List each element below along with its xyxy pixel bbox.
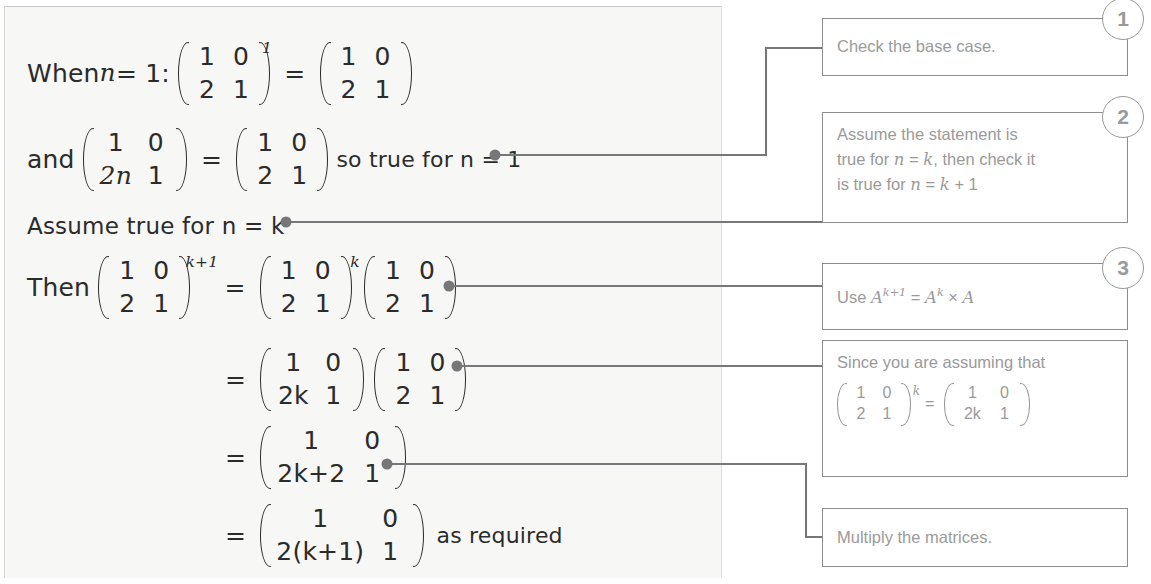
badge-number: 2 [1117, 105, 1129, 129]
paren-left [260, 255, 271, 320]
callout-matrix-lhs: 10 21 k [837, 383, 911, 426]
equals-sign: = [219, 443, 252, 472]
paren-left [260, 425, 271, 490]
cell: 1 [190, 41, 224, 74]
matrix-then-right: 10 21 [364, 255, 456, 320]
cell: 0 [989, 383, 1019, 403]
paren-left [236, 127, 247, 192]
callout-4-equation: 10 21 k = 10 2k1 [837, 383, 1113, 426]
callout-3-sup1: k+1 [883, 286, 906, 299]
cell: 2(k+1) [272, 536, 368, 569]
work-line-then: Then 10 21 k+1 = 10 21 k [27, 255, 456, 320]
callout-2-text-e: + 1 [950, 175, 978, 193]
callout-2-text-c: , then check it [933, 150, 1035, 168]
assume-text: Assume true for n = k [27, 213, 285, 239]
cell: 2 [848, 404, 874, 424]
paren-left [364, 255, 375, 320]
badge-number: 1 [1117, 7, 1129, 31]
work-line-base-case: When n = 1: 10 21 1 = 10 21 [27, 41, 412, 106]
base-case-var: n [100, 58, 116, 87]
badge-number: 3 [1117, 256, 1129, 280]
cell: 1 [272, 503, 368, 536]
cell: 2 [386, 380, 420, 413]
paren-right [317, 127, 328, 192]
callout-3-a3: A [963, 287, 975, 306]
cell: 1 [95, 127, 137, 160]
callout-use-power-rule[interactable]: Use Ak+1 = Ak × A [822, 263, 1128, 330]
paren-left [260, 503, 271, 568]
equals-sign: = [278, 59, 311, 88]
paren-right [413, 503, 424, 568]
work-line-assume: Assume true for n = k [27, 213, 285, 239]
callout-badge-1: 1 [1102, 0, 1144, 40]
callout-3-prefix: Use [837, 287, 871, 305]
work-line-sub: = 10 2k1 10 21 [219, 347, 466, 412]
callout-5-text: Multiply the matrices. [837, 525, 992, 550]
callout-matrix-exponent: k [913, 382, 920, 400]
work-line-formula-check: and 10 2n1 = 10 21 so true for n = 1 [27, 127, 521, 192]
cell: 0 [137, 127, 175, 160]
cell: 0 [874, 383, 900, 403]
equals-sign: = [219, 521, 252, 550]
matrix-then-mid: 10 21 k [260, 255, 352, 320]
callout-2-text-d: is true for [837, 175, 910, 193]
paren-right [395, 425, 406, 490]
paren-left [98, 255, 109, 320]
cell: 1 [376, 255, 410, 288]
paren-left [83, 127, 94, 192]
cell: 2 [190, 74, 224, 107]
work-line-final: = 10 2(k+1)1 as required [219, 503, 563, 568]
paren-left [260, 347, 271, 412]
callout-2-line-2: true for n = k, then check it [837, 147, 1113, 172]
matrix-exponent: 1 [262, 39, 272, 57]
final-suffix: as required [436, 523, 562, 548]
cell: 1 [848, 383, 874, 403]
cell: 2 [332, 74, 366, 107]
cell: 1 [410, 288, 444, 321]
callout-matrix-rhs: 10 2k1 [944, 383, 1030, 426]
matrix-exponent: k [350, 253, 360, 271]
matrix-product: 10 2k+21 [260, 425, 406, 490]
callout-3-sup2: k [937, 286, 944, 299]
cell: 1 [314, 380, 352, 413]
cell: 2 [376, 288, 410, 321]
cell: 2 [272, 288, 306, 321]
paren-left [178, 41, 189, 106]
callout-2-eq: = [905, 150, 924, 168]
matrix-base-lhs: 10 21 1 [178, 41, 270, 106]
callout-3-eq: = [906, 287, 925, 305]
paren-right [445, 255, 456, 320]
worked-solution-panel: When n = 1: 10 21 1 = 10 21 [4, 6, 722, 578]
callout-assume-statement[interactable]: Assume the statement is true for n = k, … [822, 112, 1128, 223]
matrix-formula-lhs: 10 2n1 [83, 127, 187, 192]
equals-sign: = [219, 365, 252, 394]
cell: 1 [110, 255, 144, 288]
callout-3-a1: A [871, 287, 883, 306]
callout-since-assuming[interactable]: Since you are assuming that 10 21 k = 10… [822, 340, 1128, 477]
matrix-sub-rhs: 10 21 [374, 347, 466, 412]
callout-2-text-b: true for [837, 150, 894, 168]
paren-right [901, 383, 911, 426]
cell: 1 [306, 288, 340, 321]
cell: 0 [314, 347, 352, 380]
cell: 1 [955, 383, 989, 403]
cell: 2k+2 [272, 458, 350, 491]
then-prefix: Then [27, 273, 90, 302]
matrix-exponent: k+1 [185, 253, 218, 271]
cell: 0 [282, 127, 316, 160]
base-case-prefix: When [27, 59, 100, 88]
callout-multiply-matrices[interactable]: Multiply the matrices. [822, 508, 1128, 567]
matrix-sub-lhs: 10 2k1 [260, 347, 364, 412]
paren-right [1020, 383, 1030, 426]
callout-check-base-case[interactable]: Check the base case. [822, 18, 1128, 76]
matrix-formula-rhs: 10 21 [236, 127, 328, 192]
cell: 0 [306, 255, 340, 288]
callout-2-line-3: is true for n = k + 1 [837, 172, 1113, 197]
work-line-product: = 10 2k+21 [219, 425, 406, 490]
matrix-then-lhs: 10 21 k+1 [98, 255, 190, 320]
cell: 1 [420, 380, 454, 413]
paren-left [320, 41, 331, 106]
matrix-base-rhs: 10 21 [320, 41, 412, 106]
cell: 1 [272, 255, 306, 288]
formula-check-suffix: so true for n = 1 [336, 147, 521, 172]
